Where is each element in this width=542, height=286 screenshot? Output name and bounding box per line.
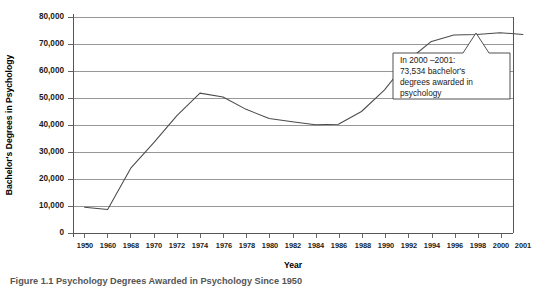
x-tick-labels: 1950 1960 1968 1970 1972 1974 1976 1978 … [77,241,531,250]
y-tick-label: 50,000 [39,93,64,102]
figure-caption: Figure 1.1 Psychology Degrees Awarded in… [10,276,302,286]
y-tick-labels: 80,000 70,000 60,000 50,000 40,000 30,00… [39,12,64,237]
x-tick-label: 1980 [262,241,278,250]
x-tick-marks [85,233,502,238]
y-tick-label: 10,000 [39,201,64,210]
x-tick-label: 1972 [169,241,185,250]
x-axis-title: Year [284,260,303,270]
y-axis-title: Bachelor's Degrees in Psychology [4,55,14,196]
x-tick-label: 1982 [285,241,301,250]
chart-figure: 80,000 70,000 60,000 50,000 40,000 30,00… [0,0,542,286]
x-tick-label: 1992 [401,241,417,250]
line-chart: 80,000 70,000 60,000 50,000 40,000 30,00… [0,0,542,286]
x-tick-label: 1970 [146,241,162,250]
y-tick-label: 70,000 [39,39,64,48]
y-tick-label: 80,000 [39,12,64,21]
x-tick-label: 1994 [424,241,441,250]
x-tick-label: 1968 [123,241,139,250]
x-tick-label: 1950 [77,241,93,250]
x-tick-label: 1960 [100,241,116,250]
callout-line-4: psychology [400,88,442,98]
callout-line-3: degrees awarded in [400,77,473,87]
x-tick-label: 1998 [470,241,486,250]
y-tick-label: 60,000 [39,66,64,75]
x-tick-label: 2000 [493,241,509,250]
x-tick-label: 1990 [378,241,394,250]
x-tick-label: 1976 [216,241,232,250]
x-tick-label: 1996 [447,241,463,250]
y-tick-label: 20,000 [39,174,64,183]
callout-line-2: 73,534 bachelor's [400,66,465,76]
y-tick-label: 30,000 [39,147,64,156]
x-tick-label: 2001 [515,241,531,250]
x-tick-label: 1984 [308,241,325,250]
x-tick-label: 1978 [239,241,255,250]
y-tick-label: 40,000 [39,120,64,129]
x-tick-label: 1986 [331,241,347,250]
x-tick-label: 1988 [355,241,371,250]
y-tick-marks [68,17,73,233]
callout-line-1: In 2000 –2001: [400,55,455,65]
x-tick-label: 1974 [192,241,209,250]
y-tick-label: 0 [59,228,64,237]
